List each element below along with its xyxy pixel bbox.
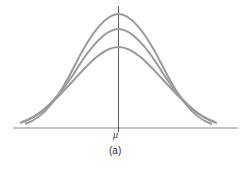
mean-label: μ <box>113 129 118 140</box>
normal-curves-diagram <box>0 0 246 174</box>
figure-caption: (a) <box>109 145 121 156</box>
